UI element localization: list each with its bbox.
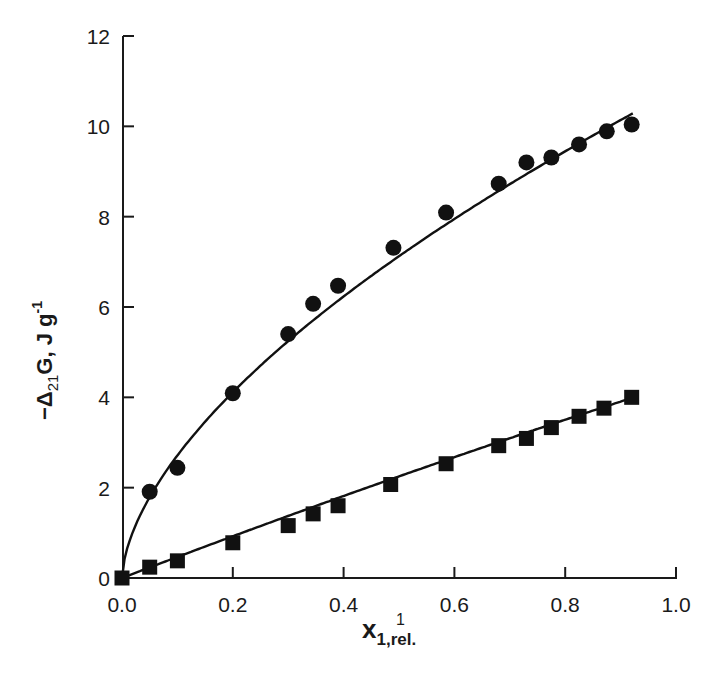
x-axis-label: x1,rel.	[362, 614, 416, 649]
circle-marker	[280, 326, 296, 342]
x-label-main: x	[362, 614, 377, 644]
circle-marker	[438, 205, 454, 221]
circle-marker	[624, 117, 640, 133]
square-marker	[544, 420, 559, 435]
square-marker	[306, 506, 321, 521]
square-marker	[383, 477, 398, 492]
y-ticks: 024681012	[87, 25, 134, 590]
circles-fit-curve	[122, 113, 633, 578]
y-label-sub: 21	[44, 375, 61, 392]
circle-marker	[599, 123, 615, 139]
data-markers	[115, 117, 640, 586]
circle-marker	[571, 136, 587, 152]
square-marker	[624, 390, 639, 405]
y-label-prefix: −Δ	[32, 391, 57, 420]
circle-marker	[491, 176, 507, 192]
square-marker	[170, 553, 185, 568]
circle-marker	[385, 240, 401, 256]
square-marker	[519, 431, 534, 446]
y-tick-label: 12	[87, 25, 110, 48]
circle-marker	[305, 296, 321, 312]
x-tick-label: 0.2	[218, 593, 247, 616]
fit-curves	[122, 113, 633, 578]
circle-marker	[518, 154, 534, 170]
square-marker	[572, 409, 587, 424]
circle-marker	[169, 460, 185, 476]
square-marker	[142, 560, 157, 575]
y-tick-label: 2	[98, 477, 110, 500]
x-label-stray-mark: 1	[396, 611, 405, 628]
circle-marker	[142, 484, 158, 500]
square-marker	[596, 401, 611, 416]
square-marker	[225, 535, 240, 550]
x-axis: 0.00.20.40.60.81.0	[107, 567, 690, 616]
y-axis: 024681012	[87, 25, 134, 590]
circle-marker	[330, 278, 346, 294]
y-label-mid: G, J g	[32, 314, 57, 375]
square-marker	[331, 498, 346, 513]
y-tick-label: 10	[87, 115, 110, 138]
x-tick-label: 0.6	[440, 593, 469, 616]
x-tick-label: 0.4	[329, 593, 359, 616]
y-tick-label: 4	[98, 386, 110, 409]
y-tick-label: 8	[98, 206, 110, 229]
y-axis-label: −Δ21G, J g-1	[29, 301, 61, 420]
square-marker	[281, 518, 296, 533]
y-tick-label: 0	[98, 567, 110, 590]
square-marker	[439, 456, 454, 471]
chart: 024681012 0.00.20.40.60.81.0 −Δ21G, J g-…	[0, 0, 724, 686]
x-label-sub: 1,rel.	[376, 630, 416, 649]
x-tick-label: 0.0	[107, 593, 136, 616]
x-tick-label: 0.8	[551, 593, 580, 616]
y-tick-label: 6	[98, 296, 110, 319]
square-marker	[115, 571, 130, 586]
y-label-sup: -1	[29, 301, 45, 314]
circle-marker	[543, 149, 559, 165]
x-ticks: 0.00.20.40.60.81.0	[107, 567, 690, 616]
square-marker	[491, 438, 506, 453]
x-tick-label: 1.0	[661, 593, 690, 616]
circle-marker	[225, 385, 241, 401]
